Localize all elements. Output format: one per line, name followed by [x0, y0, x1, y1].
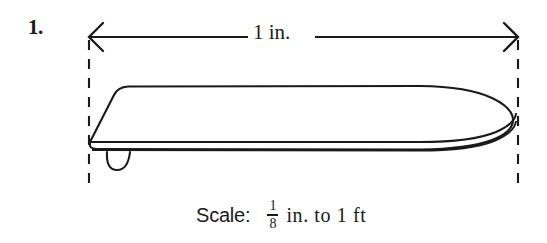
scale-tail-text: in. to 1 ft — [286, 205, 366, 225]
ironing-board-top-surface — [90, 86, 513, 150]
scale-caption: Scale: 1 8 in. to 1 ft — [196, 198, 366, 232]
scale-label: Scale: — [196, 205, 250, 225]
fraction-numerator: 1 — [268, 199, 277, 214]
scale-fraction: 1 8 — [267, 199, 278, 231]
dimension-label: 1 in. — [248, 22, 295, 43]
fraction-denominator: 8 — [268, 216, 277, 231]
problem-number: 1. — [28, 17, 43, 38]
figure-page: 1. 1 in. Scale: 1 8 in. to 1 ft — [0, 0, 547, 243]
board-hook-icon — [107, 152, 130, 170]
